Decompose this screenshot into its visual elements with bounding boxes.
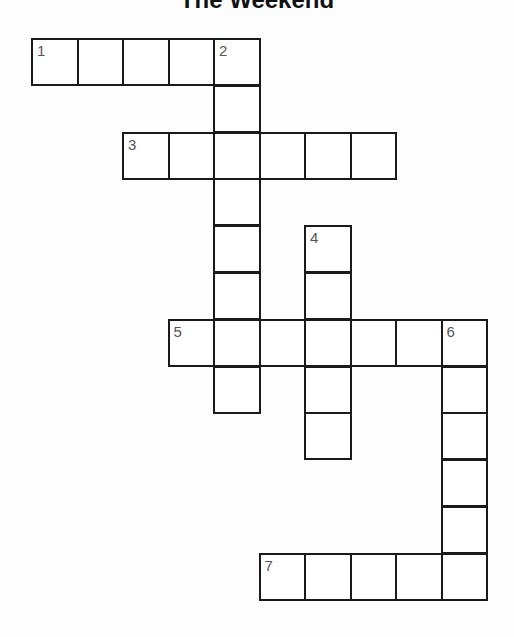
crossword-cell[interactable] [441, 412, 489, 460]
crossword-cell[interactable]: 2 [213, 38, 261, 86]
crossword-cell[interactable]: 4 [304, 225, 352, 273]
crossword-cell[interactable] [304, 553, 352, 601]
crossword-cell[interactable] [304, 412, 352, 460]
crossword-cell[interactable] [441, 553, 489, 601]
crossword-cell[interactable] [441, 506, 489, 554]
crossword-cell[interactable] [77, 38, 125, 86]
crossword-cell[interactable] [304, 272, 352, 320]
crossword-cell[interactable] [350, 319, 398, 367]
clue-number: 5 [174, 324, 182, 339]
clue-number: 4 [310, 230, 318, 245]
crossword-cell[interactable]: 7 [259, 553, 307, 601]
crossword-cell[interactable] [304, 132, 352, 180]
crossword-cell[interactable] [213, 225, 261, 273]
crossword-cell[interactable] [441, 366, 489, 414]
crossword-cell[interactable] [213, 272, 261, 320]
crossword-cell[interactable] [441, 459, 489, 507]
clue-number: 2 [219, 43, 227, 58]
crossword-cell[interactable]: 6 [441, 319, 489, 367]
clue-number: 6 [447, 324, 455, 339]
crossword-cell[interactable] [213, 319, 261, 367]
crossword-cell[interactable] [304, 366, 352, 414]
crossword-cell[interactable] [213, 178, 261, 226]
crossword-cell[interactable] [395, 319, 443, 367]
clue-number: 3 [128, 137, 136, 152]
crossword-cell[interactable]: 3 [122, 132, 170, 180]
crossword-cell[interactable] [168, 38, 216, 86]
crossword-cell[interactable]: 5 [168, 319, 216, 367]
crossword-cell[interactable] [213, 366, 261, 414]
crossword-cell[interactable] [122, 38, 170, 86]
crossword-cell[interactable] [213, 132, 261, 180]
crossword-cell[interactable] [395, 553, 443, 601]
crossword-cell[interactable] [350, 553, 398, 601]
crossword-grid: 1234567 [0, 0, 514, 637]
clue-number: 7 [265, 558, 273, 573]
crossword-cell[interactable] [259, 132, 307, 180]
crossword-cell[interactable] [213, 85, 261, 133]
clue-number: 1 [37, 43, 45, 58]
crossword-cell[interactable] [168, 132, 216, 180]
crossword-cell[interactable] [304, 319, 352, 367]
crossword-cell[interactable] [259, 319, 307, 367]
crossword-cell[interactable] [350, 132, 398, 180]
crossword-cell[interactable]: 1 [31, 38, 79, 86]
